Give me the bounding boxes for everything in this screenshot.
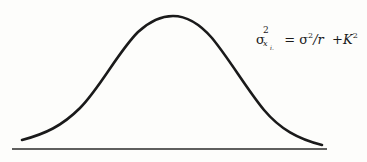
normal-curve-figure: σ 2 x i. = σ2/r +K2: [0, 0, 367, 162]
superscript-2: 2: [263, 26, 269, 35]
bell-curve-diagram: [0, 0, 367, 162]
formula-lhs: σ 2 x i.: [256, 33, 280, 46]
plus-sign: +: [332, 32, 343, 47]
equals-sign: =: [284, 32, 295, 47]
subscript-i: i.: [270, 45, 274, 51]
k-symbol: K: [343, 32, 353, 47]
k-sup: 2: [353, 31, 358, 40]
subscript-x: x: [263, 40, 268, 48]
formula-rhs: σ2/r +K2: [299, 32, 358, 47]
rhs-sigma: σ: [299, 32, 308, 47]
rhs-div-r: /r: [313, 32, 324, 47]
variance-formula: σ 2 x i. = σ2/r +K2: [256, 32, 358, 46]
